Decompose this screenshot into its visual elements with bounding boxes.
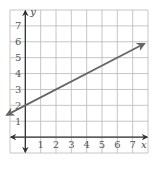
- data-line: [7, 44, 144, 115]
- y-tick-label: 6: [15, 36, 21, 47]
- series-line: [7, 44, 144, 115]
- y-tick-label: 3: [15, 84, 21, 95]
- y-tick-label: 5: [15, 52, 21, 63]
- y-axis-label: y: [29, 6, 36, 17]
- y-tick-label: 1: [15, 116, 21, 127]
- x-tick-label: 6: [114, 139, 120, 150]
- x-tick-label: 4: [83, 139, 89, 150]
- x-tick-label: 5: [99, 139, 105, 150]
- x-tick-label: 1: [37, 139, 43, 150]
- y-tick-label: 7: [15, 20, 21, 31]
- line-graph: 12345671234567 x y: [0, 0, 157, 169]
- grid: [10, 10, 148, 153]
- x-axis-label: x: [141, 139, 147, 150]
- x-tick-label: 7: [129, 139, 135, 150]
- x-tick-label: 2: [53, 139, 59, 150]
- x-tick-label: 3: [68, 139, 74, 150]
- axes: [11, 11, 147, 152]
- y-tick-label: 4: [15, 68, 21, 79]
